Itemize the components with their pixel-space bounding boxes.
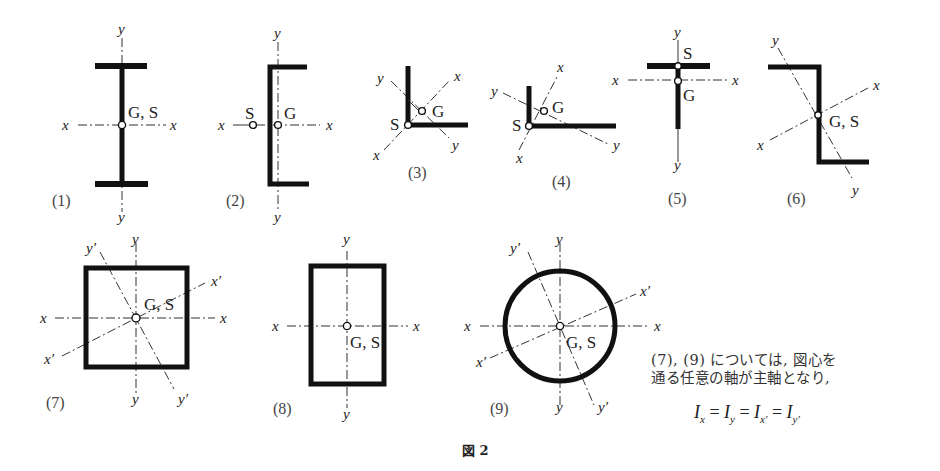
y-label: y bbox=[770, 32, 779, 48]
y-label: y bbox=[672, 24, 681, 40]
subscript: x′ bbox=[760, 413, 767, 425]
panel-number: (2) bbox=[226, 192, 245, 210]
x-prime-label: x′ bbox=[639, 283, 651, 299]
figure-canvas: G, S x x y y (1) S G x x y y (2) S G x x… bbox=[0, 0, 940, 471]
panel-2-channel: S G x x y y (2) bbox=[217, 25, 333, 225]
x-label: x bbox=[453, 68, 461, 84]
panel-8-rectangular-tube: G, S x x y y (8) bbox=[271, 231, 420, 422]
centroid-point bbox=[275, 122, 282, 129]
g-label: G bbox=[552, 98, 564, 117]
x-label: x bbox=[872, 77, 880, 93]
centroid-shear-center-point bbox=[118, 121, 125, 128]
y-label: y bbox=[130, 391, 139, 407]
x-label: x bbox=[219, 310, 227, 326]
s-label: S bbox=[245, 104, 254, 123]
x-label: x bbox=[463, 318, 471, 334]
y-label: y bbox=[850, 182, 859, 198]
y-label: y bbox=[375, 70, 384, 86]
panel-number: (7) bbox=[46, 394, 65, 412]
x-label: x bbox=[611, 72, 619, 88]
shear-center-point bbox=[405, 122, 412, 129]
y-prime-label: y′ bbox=[84, 240, 97, 256]
panel-number: (6) bbox=[787, 190, 806, 208]
equals: = bbox=[772, 402, 782, 422]
x-label: x bbox=[61, 117, 69, 133]
y-label: y bbox=[450, 137, 459, 153]
y-label: y bbox=[130, 231, 139, 247]
panel-5-t-section: S G x x y y (5) bbox=[611, 24, 739, 208]
shear-center-point bbox=[526, 123, 533, 130]
gs-label: G, S bbox=[829, 112, 859, 131]
s-label: S bbox=[683, 44, 692, 63]
panel-number: (4) bbox=[552, 173, 571, 191]
centroid-shear-center-point bbox=[556, 322, 563, 329]
x-label: x bbox=[756, 137, 764, 153]
y-prime-label: y′ bbox=[596, 399, 609, 415]
subscript: x bbox=[700, 413, 705, 425]
s-label: S bbox=[390, 115, 399, 134]
x-prime-label: x′ bbox=[210, 273, 222, 289]
centroid-shear-center-point bbox=[815, 112, 821, 118]
x-prime-label: x′ bbox=[43, 351, 55, 367]
y-label: y bbox=[272, 209, 281, 225]
y-label: y bbox=[554, 231, 563, 247]
x-label: x bbox=[217, 117, 225, 133]
panel-number: (1) bbox=[52, 192, 71, 210]
s-label: S bbox=[512, 116, 521, 135]
x-label: x bbox=[169, 117, 177, 133]
panel-7-square-tube: G, S x x y y x′ x′ y′ y′ (7) bbox=[39, 231, 227, 412]
note-line-1: (7), (9) については, 図心を bbox=[651, 352, 837, 369]
x-label: x bbox=[412, 318, 420, 334]
y-label: y bbox=[116, 21, 125, 37]
subscript: y bbox=[730, 413, 735, 425]
equals: = bbox=[709, 402, 719, 422]
x-label: x bbox=[271, 318, 279, 334]
centroid-shear-center-point bbox=[343, 322, 350, 329]
y-label: y bbox=[272, 25, 281, 41]
moment-of-inertia-equation: Ix = Iy = Ix′ = Iy′ bbox=[694, 402, 800, 425]
y-prime-label: y′ bbox=[176, 391, 189, 407]
panel-6-z-section: G, S x x y y (6) bbox=[756, 32, 880, 208]
centroid-point bbox=[675, 78, 682, 85]
g-label: G bbox=[683, 86, 695, 105]
gs-label: G, S bbox=[128, 103, 158, 122]
equals: = bbox=[739, 402, 749, 422]
g-label: G bbox=[284, 104, 296, 123]
figure-caption: 図 2 bbox=[462, 440, 489, 459]
x-prime-label: x′ bbox=[475, 354, 487, 370]
panel-1-i-section: G, S x x y y (1) bbox=[52, 21, 177, 225]
centroid-shear-center-point bbox=[132, 314, 140, 322]
gs-label: G, S bbox=[350, 333, 380, 352]
g-label: G bbox=[432, 102, 444, 121]
gs-label: G, S bbox=[144, 295, 174, 314]
y-label: y bbox=[611, 137, 620, 153]
y-label: y bbox=[341, 406, 350, 422]
x-label: x bbox=[556, 59, 564, 75]
note-line-2: 通る任意の軸が主軸となり, bbox=[651, 370, 830, 387]
gs-label: G, S bbox=[566, 333, 596, 352]
y-label: y bbox=[116, 209, 125, 225]
y-label: y bbox=[672, 157, 681, 173]
centroid-point bbox=[419, 108, 426, 115]
x-label: x bbox=[653, 318, 661, 334]
x-label: x bbox=[515, 150, 523, 166]
y-label: y bbox=[489, 83, 498, 99]
panel-number: (9) bbox=[490, 400, 509, 418]
x-label: x bbox=[372, 147, 380, 163]
x-label: x bbox=[731, 72, 739, 88]
x-label: x bbox=[325, 117, 333, 133]
panel-number: (5) bbox=[668, 190, 687, 208]
y-label: y bbox=[341, 231, 350, 247]
panel-4-unequal-angle: S G x x y y (4) bbox=[489, 59, 620, 191]
panel-number: (8) bbox=[273, 400, 292, 418]
y-label: y bbox=[554, 399, 563, 415]
y-prime-label: y′ bbox=[508, 240, 521, 256]
subscript: y′ bbox=[793, 413, 800, 425]
panel-9-circular-tube: G, S x x y y x′ x′ y′ y′ (9) bbox=[463, 231, 661, 418]
shear-center-point bbox=[675, 63, 681, 69]
panel-3-equal-angle: S G x x y y (3) bbox=[372, 66, 468, 182]
x-label: x bbox=[39, 310, 47, 326]
centroid-point bbox=[541, 108, 548, 115]
panel-number: (3) bbox=[408, 164, 427, 182]
